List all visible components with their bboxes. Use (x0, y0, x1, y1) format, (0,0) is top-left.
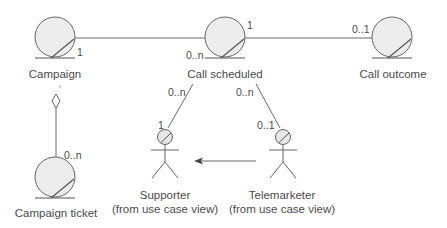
aggregation-diamond-icon (52, 94, 60, 108)
multiplicity-scheduled-supporter-top: 0..n (168, 86, 186, 98)
entity-label-call-scheduled: Call scheduled (187, 68, 262, 81)
aggregation-campaign-ticket[interactable] (52, 94, 60, 157)
actor-icon-telemarketer[interactable] (269, 130, 297, 179)
entity-class-icon-campaign[interactable] (35, 17, 75, 58)
stereotype-mark: E (59, 84, 62, 89)
actor-label-supporter: Supporter (140, 189, 191, 202)
entity-class-icon-campaign-ticket[interactable] (35, 157, 75, 198)
multiplicity-scheduled-telemarketer-top: 0..n (236, 86, 254, 98)
multiplicity-call-outcome-left: 0..1 (352, 23, 370, 35)
actor-sublabel-telemarketer: (from use case view) (229, 203, 335, 216)
entity-label-campaign-ticket: Campaign ticket (15, 207, 97, 220)
telemarketer-to-supporter-arrow[interactable] (194, 158, 256, 165)
multiplicity-campaign-right: 1 (77, 46, 83, 58)
actor-sublabel-supporter: (from use case view) (112, 203, 218, 216)
entity-label-call-outcome: Call outcome (359, 68, 426, 81)
multiplicity-call-scheduled-left: 0..n (186, 49, 204, 61)
entity-class-icon-call-outcome[interactable] (372, 17, 412, 58)
multiplicity-telemarketer-end: 0..1 (257, 119, 275, 131)
entity-class-icon-call-scheduled[interactable] (205, 17, 245, 58)
actor-label-telemarketer: Telemarketer (249, 189, 315, 202)
actor-icon-supporter[interactable] (151, 130, 179, 179)
multiplicity-campaign-ticket-end: 0..n (64, 149, 82, 161)
diagram-canvas: E (0, 0, 447, 228)
multiplicity-call-scheduled-right: 1 (247, 19, 253, 31)
multiplicity-supporter-end: 1 (158, 119, 164, 131)
entity-label-campaign: Campaign (29, 68, 81, 81)
